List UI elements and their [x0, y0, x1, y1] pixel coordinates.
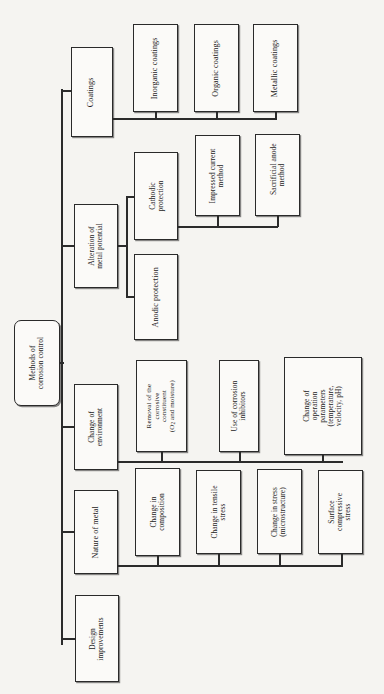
node-inorganic-coatings[interactable]: Inorganic coatings — [133, 24, 178, 112]
connector-environment-drop-removal — [161, 452, 163, 462]
node-change-of-operation-parameters[interactable]: Change of operation parameters (temperat… — [284, 357, 362, 455]
connector-environment-drop-operation — [322, 455, 324, 462]
connector-trunk-to-alteration — [61, 245, 75, 247]
connector-main-trunk — [61, 89, 63, 645]
node-design-improvements-label: Design improvements — [89, 617, 105, 660]
node-use-of-corrosion-inhibitors[interactable]: Use of corrosion inhibitors — [219, 360, 259, 452]
node-sacrificial-anode-method[interactable]: Sacrificial anode method — [255, 134, 300, 216]
node-coatings-label: Coatings — [88, 77, 97, 107]
node-surface-compressive-stress-label: Surface compressive stress — [329, 493, 353, 531]
node-organic-coatings[interactable]: Organic coatings — [194, 24, 239, 112]
connector-nature-drop-tensile — [218, 553, 220, 566]
node-root[interactable]: Methods of corrosion control — [14, 320, 60, 406]
connector-coatings-drop-metallic — [275, 111, 277, 119]
corrosion-control-flowchart: Methods of corrosion control Coatings In… — [0, 0, 384, 694]
node-design-improvements[interactable]: Design improvements — [75, 595, 119, 682]
connector-alteration-stem — [117, 245, 127, 247]
node-organic-coatings-label: Organic coatings — [212, 40, 221, 97]
node-change-of-environment-label: Change of environment — [88, 408, 104, 446]
node-anodic-protection[interactable]: Anodic protection — [134, 254, 178, 340]
node-change-in-stress-microstructure[interactable]: Change in stress (microstructure) — [257, 469, 302, 554]
connector-alteration-bus — [126, 196, 128, 297]
node-use-of-corrosion-inhibitors-label: Use of corrosion inhibitors — [231, 381, 247, 432]
connector-coatings-drop-inorganic — [155, 111, 157, 119]
node-removal-of-corrosive-constituent[interactable]: Removal of the corrosive constituent (O2… — [136, 360, 187, 452]
node-sacrificial-anode-method-label: Sacrificial anode method — [262, 143, 294, 206]
node-coatings[interactable]: Coatings — [71, 47, 113, 137]
node-change-in-composition[interactable]: Change in composition — [135, 468, 180, 556]
node-removal-of-corrosive-constituent-label: Removal of the corrosive constituent (O2… — [146, 380, 176, 432]
node-alteration-of-metal-potential-label: Alteration of metal potential — [88, 223, 104, 269]
connector-nature-bus — [117, 565, 343, 567]
connector-trunk-to-design-improvements — [61, 638, 76, 640]
connector-coatings-bus — [112, 118, 277, 120]
connector-nature-drop-composition — [157, 555, 159, 566]
node-change-in-tensile-stress[interactable]: Change in tensile stress — [196, 470, 241, 554]
connector-environment-drop-inhibitors — [239, 452, 241, 462]
node-change-of-environment[interactable]: Change of environment — [74, 384, 118, 470]
connector-coatings-drop-organic — [216, 111, 218, 119]
connector-trunk-to-change-of-environment — [61, 426, 75, 428]
node-impressed-current-method-label: Impressed current method — [210, 148, 226, 203]
node-root-label: Methods of corrosion control — [29, 337, 45, 389]
connector-environment-bus — [117, 461, 343, 463]
node-impressed-current-method[interactable]: Impressed current method — [195, 135, 240, 216]
node-cathodic-protection[interactable]: Cathodic protection — [134, 152, 178, 240]
connector-cathodic-drop-impressed — [217, 215, 219, 227]
connector-trunk-to-nature-of-metal — [61, 531, 75, 533]
node-metallic-coatings-label: Metallic coatings — [271, 39, 280, 97]
node-nature-of-metal[interactable]: Nature of metal — [74, 490, 118, 574]
connector-nature-drop-surface — [341, 553, 343, 566]
node-sacrificial-anode-method-text: Sacrificial anode method — [269, 143, 286, 195]
connector-cathodic-drop-sacrificial — [277, 215, 279, 227]
node-inorganic-coatings-label: Inorganic coatings — [151, 37, 160, 99]
node-cathodic-protection-label: Cathodic protection — [148, 181, 164, 212]
removal-label-part2: and moisture) — [168, 380, 176, 422]
node-anodic-protection-label: Anodic protection — [152, 267, 161, 327]
node-change-of-operation-parameters-label: Change of operation parameters (temperat… — [303, 386, 343, 427]
node-change-in-tensile-stress-label: Change in tensile stress — [211, 485, 227, 538]
removal-label-sub: 2 — [171, 422, 176, 425]
node-change-in-composition-label: Change in composition — [150, 493, 166, 531]
node-metallic-coatings[interactable]: Metallic coatings — [253, 24, 298, 112]
node-change-in-stress-microstructure-label: Change in stress (microstructure) — [272, 486, 288, 536]
node-alteration-of-metal-potential[interactable]: Alteration of metal potential — [74, 204, 118, 288]
node-nature-of-metal-label: Nature of metal — [92, 506, 101, 558]
node-surface-compressive-stress[interactable]: Surface compressive stress — [318, 470, 363, 554]
connector-cathodic-bus — [177, 226, 278, 228]
connector-nature-drop-microstructure — [279, 553, 281, 566]
